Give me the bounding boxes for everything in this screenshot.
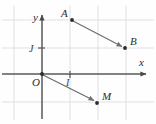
point-M bbox=[95, 101, 99, 105]
point-A bbox=[70, 18, 74, 22]
point-label-B: B bbox=[130, 35, 137, 47]
origin-label: O bbox=[32, 76, 40, 88]
point-B bbox=[123, 46, 127, 50]
x-unit-label: I bbox=[65, 77, 70, 88]
point-O bbox=[40, 72, 44, 76]
plotted-points bbox=[40, 18, 127, 105]
point-label-M: M bbox=[101, 90, 112, 102]
vector-AB bbox=[73, 21, 122, 47]
y-axis-label: y bbox=[32, 11, 38, 23]
coordinate-plane-figure: A B M O I J x y bbox=[0, 0, 156, 124]
axes bbox=[2, 15, 146, 119]
point-label-A: A bbox=[60, 7, 68, 19]
figure-canvas: A B M O I J x y bbox=[0, 0, 156, 124]
x-axis-label: x bbox=[138, 56, 144, 68]
vectors bbox=[43, 21, 122, 101]
y-unit-label: J bbox=[29, 43, 34, 54]
